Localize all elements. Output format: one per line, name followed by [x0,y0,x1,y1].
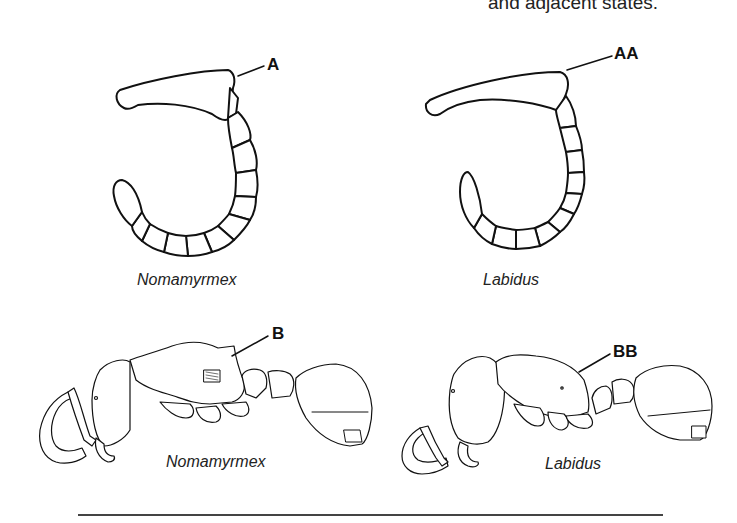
leg [196,406,221,422]
genus-label-body-left: Nomamyrmex [166,453,266,471]
antenna-labidus [426,72,584,249]
genus-label-antenna-left: Nomamyrmex [137,271,237,289]
scape [426,72,568,115]
segment [235,170,258,197]
mesosoma [130,342,244,404]
petiole [242,369,267,398]
petiole [592,386,612,414]
segment [566,150,584,173]
callout-aa: AA [614,44,639,64]
spiracle [561,387,563,389]
body-nomamyrmex [40,342,372,463]
callout-a: A [267,55,279,75]
segment [516,228,540,249]
scape [117,70,235,120]
antenna-scape [420,426,448,466]
callout-line-a [238,66,264,76]
gaster-tip [692,426,706,438]
head [92,360,130,446]
genus-label-body-right: Labidus [545,455,601,473]
genus-label-antenna-right: Labidus [483,271,539,289]
illustration [0,0,737,523]
eye [452,390,455,393]
leg [222,402,249,416]
horizontal-rule [78,514,663,516]
leg [160,402,193,418]
segment [566,172,584,194]
mandible [458,442,478,467]
callout-b: B [272,324,284,344]
antenna-nomamyrmex [113,70,257,256]
callout-line-aa [567,56,612,70]
club [113,180,142,226]
callout-line-bb [579,354,610,372]
eye [95,397,98,400]
callout-line-b [232,336,268,356]
mesosoma [496,355,589,418]
callout-bb: BB [613,342,638,362]
leg [566,414,593,428]
gaster-tip [344,430,362,442]
club [460,172,482,228]
postpetiole [268,371,294,398]
segment [560,126,582,152]
leg [548,412,568,430]
postpetiole [612,379,634,404]
